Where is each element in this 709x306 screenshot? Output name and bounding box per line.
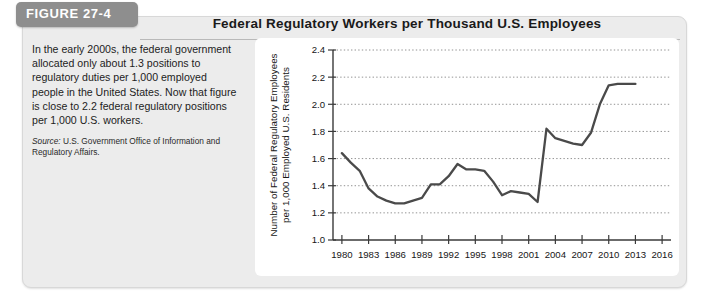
svg-text:2016: 2016 (651, 249, 672, 260)
svg-text:2010: 2010 (598, 249, 619, 260)
x-axis-ticks: 1980198319861989199219951998200120042007… (331, 235, 673, 260)
svg-text:2.0: 2.0 (312, 99, 325, 110)
figure-number-label: FIGURE 27-4 (16, 2, 138, 21)
figure-container: FIGURE 27-4 Federal Regulatory Workers p… (22, 8, 687, 290)
line-chart: 1.01.21.41.61.82.02.22.4 198019831986198… (255, 38, 679, 276)
svg-text:1995: 1995 (465, 249, 486, 260)
svg-text:2.4: 2.4 (312, 44, 326, 55)
svg-text:2001: 2001 (518, 249, 539, 260)
svg-text:1.4: 1.4 (312, 180, 326, 191)
svg-text:Number of Federal Regulatory E: Number of Federal Regulatory Employees (268, 53, 279, 236)
svg-text:1986: 1986 (385, 249, 406, 260)
svg-text:1998: 1998 (491, 249, 512, 260)
svg-text:1.6: 1.6 (312, 153, 325, 164)
svg-text:1.2: 1.2 (312, 207, 325, 218)
svg-text:per 1,000 Employed U.S. Reside: per 1,000 Employed U.S. Residents (280, 67, 291, 223)
caption-text: In the early 2000s, the federal governme… (32, 42, 237, 127)
svg-text:2007: 2007 (571, 249, 592, 260)
svg-text:1992: 1992 (438, 249, 459, 260)
figure-title: Federal Regulatory Workers per Thousand … (142, 16, 672, 31)
svg-text:2.2: 2.2 (312, 72, 325, 83)
svg-text:1.8: 1.8 (312, 126, 325, 137)
svg-text:1989: 1989 (411, 249, 432, 260)
y-axis-title: Number of Federal Regulatory Employeespe… (268, 53, 291, 236)
axes (333, 50, 671, 240)
figure-number-tab: FIGURE 27-4 (16, 2, 138, 27)
figure-caption: In the early 2000s, the federal governme… (32, 42, 237, 158)
source-text: U.S. Government Office of Information an… (32, 136, 220, 157)
svg-text:1983: 1983 (358, 249, 379, 260)
svg-text:2013: 2013 (625, 249, 646, 260)
svg-text:2004: 2004 (545, 249, 567, 260)
gridlines (333, 50, 671, 213)
svg-text:1.0: 1.0 (312, 234, 325, 245)
source-label: Source: (32, 136, 61, 146)
figure-source: Source: U.S. Government Office of Inform… (32, 136, 237, 158)
chart-card: 1.01.21.41.61.82.02.22.4 198019831986198… (255, 38, 679, 276)
svg-text:1980: 1980 (331, 249, 352, 260)
